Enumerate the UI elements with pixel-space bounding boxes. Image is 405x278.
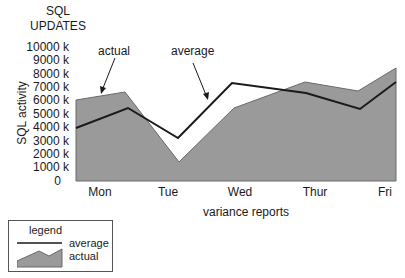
x-tick: Tue: [143, 185, 193, 199]
legend-title: legend: [29, 224, 62, 236]
x-axis-label: variance reports: [176, 205, 316, 219]
arrow-icon: [193, 63, 209, 100]
legend: legend average actual: [8, 220, 113, 272]
arrow-icon: [100, 58, 115, 94]
x-tick: Fri: [360, 185, 405, 199]
legend-swatches: [17, 239, 67, 269]
annotation-average: average: [171, 44, 214, 58]
x-tick: Mon: [75, 185, 125, 199]
x-tick: Thur: [290, 185, 340, 199]
legend-area-swatch: [17, 249, 62, 267]
actual-area: [76, 68, 396, 181]
legend-item-actual: actual: [69, 250, 98, 262]
legend-item-average: average: [69, 237, 109, 249]
x-tick: Wed: [215, 185, 265, 199]
annotation-actual: actual: [98, 44, 130, 58]
